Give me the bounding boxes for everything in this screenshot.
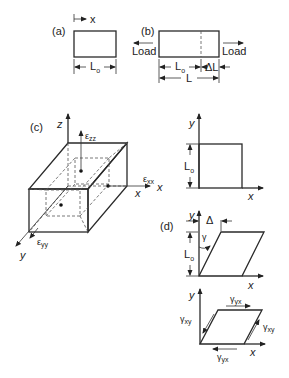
gamma-xy-left-label: γxy — [180, 314, 192, 326]
inner-edge — [46, 158, 75, 190]
inner-edge — [80, 158, 109, 190]
length-label: Lo — [90, 60, 100, 74]
panel-a-label: (a) — [52, 25, 65, 37]
gamma-xy-left-arrow-icon — [203, 314, 214, 333]
load-left-label: Load — [132, 45, 156, 57]
delta-l-label: ΔL — [205, 61, 218, 73]
bar-unloaded — [74, 31, 116, 57]
gamma-yx-bottom-label: γyx — [217, 352, 229, 364]
panel-shear: y x γyx γyx γxy γxy — [180, 289, 275, 364]
axis-y-label: y — [188, 209, 196, 221]
axis-y-label: y — [19, 249, 27, 261]
panel-d-label: (d) — [160, 220, 173, 232]
gamma-xy-right-arrow-icon — [248, 320, 259, 340]
dot-front — [59, 203, 63, 207]
axis-x-label: x — [247, 190, 254, 202]
axis-x-inner-label: x — [134, 187, 141, 199]
strain-zz-label: εzz — [85, 131, 97, 142]
y-axis-icon — [16, 186, 68, 246]
length-label: Lo — [184, 248, 194, 262]
shear-element — [200, 310, 262, 344]
axis-x-label: x — [249, 346, 256, 358]
axis-x-label: x — [90, 13, 96, 25]
sheared-element — [199, 232, 264, 276]
strain-diagram: (a) x Lo (b) Load Load Lo ΔL L (c) — [0, 0, 289, 378]
inner-front-face — [46, 190, 80, 216]
delta-label: Δ — [206, 214, 214, 226]
panel-b-label: (b) — [141, 25, 154, 37]
axis-y-label: y — [188, 117, 196, 129]
panel-square: y x Lo — [184, 114, 263, 202]
load-right-label: Load — [222, 45, 246, 57]
gamma-xy-right-label: γxy — [263, 322, 275, 334]
panel-c-label: (c) — [30, 121, 43, 133]
square-element — [199, 144, 242, 188]
bar-loaded — [159, 31, 219, 57]
length-label: Lo — [184, 160, 194, 174]
total-length-label: L — [186, 72, 192, 84]
panel-c: (c) z εzz εxx x x εyy — [16, 114, 163, 261]
gamma-label: γ — [202, 232, 207, 242]
box-top-face — [29, 143, 127, 189]
panel-b: (b) Load Load Lo ΔL L — [132, 25, 246, 84]
axis-y-label: y — [188, 289, 196, 301]
orig-length-label: Lo — [175, 60, 185, 74]
strain-yy-label: εyy — [37, 237, 49, 249]
panel-d: (d) y x Δ γ Lo — [160, 209, 264, 291]
axis-x-label: x — [156, 181, 163, 193]
panel-a: (a) x Lo — [52, 13, 116, 74]
corner-link — [80, 216, 88, 232]
strain-xx-label: εxx — [143, 174, 155, 185]
box-front-face — [29, 189, 88, 232]
gamma-yx-top-label: γyx — [230, 294, 242, 306]
gamma-arc-icon — [199, 246, 210, 248]
axis-z-label: z — [56, 118, 63, 130]
axis-x-label: x — [247, 279, 254, 291]
